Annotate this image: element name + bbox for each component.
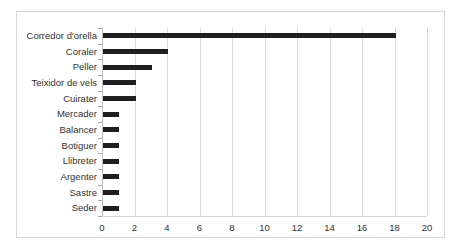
category-label: Botiguer: [17, 140, 97, 152]
bar: [103, 96, 136, 101]
bar: [103, 127, 119, 132]
x-tick-label: 2: [122, 222, 148, 234]
category-tick-mark: [98, 216, 102, 217]
x-tick-label: 18: [382, 222, 408, 234]
x-tick-label: 14: [317, 222, 343, 234]
bar: [103, 206, 119, 211]
category-tick-mark: [98, 91, 102, 92]
category-tick-mark: [98, 59, 102, 60]
y-axis-line: [102, 28, 103, 216]
x-tick-label: 0: [89, 222, 115, 234]
gridline: [362, 28, 363, 216]
category-label: Cuirater: [17, 93, 97, 105]
x-tick-label: 16: [349, 222, 375, 234]
category-label: Seder: [17, 202, 97, 214]
gridline: [330, 28, 331, 216]
category-label: Balancer: [17, 124, 97, 136]
x-tick-label: 8: [219, 222, 245, 234]
bar: [103, 112, 119, 117]
category-tick-mark: [98, 200, 102, 201]
x-tick-label: 6: [187, 222, 213, 234]
bar: [103, 33, 396, 38]
gridline: [167, 28, 168, 216]
x-axis-line: [102, 216, 427, 217]
category-tick-mark: [98, 28, 102, 29]
gridline: [200, 28, 201, 216]
category-label: Corredor d'orella: [17, 30, 97, 42]
category-tick-mark: [98, 44, 102, 45]
category-tick-mark: [98, 185, 102, 186]
category-label: Sastre: [17, 187, 97, 199]
x-tick-label: 4: [154, 222, 180, 234]
bar: [103, 49, 168, 54]
category-label: Teixidor de vels: [17, 77, 97, 89]
category-label: Coraler: [17, 46, 97, 58]
category-label: Argenter: [17, 171, 97, 183]
gridline: [297, 28, 298, 216]
category-label: Mercader: [17, 108, 97, 120]
category-label: Llibreter: [17, 155, 97, 167]
bar: [103, 80, 136, 85]
gridline: [135, 28, 136, 216]
category-tick-mark: [98, 122, 102, 123]
gridline: [232, 28, 233, 216]
bar: [103, 190, 119, 195]
gridline: [265, 28, 266, 216]
bar-chart-figure: 02468101214161820Corredor d'orellaCorale…: [16, 11, 445, 238]
category-tick-mark: [98, 169, 102, 170]
x-tick-label: 12: [284, 222, 310, 234]
x-tick-label: 10: [252, 222, 278, 234]
category-tick-mark: [98, 138, 102, 139]
bar: [103, 159, 119, 164]
category-tick-mark: [98, 75, 102, 76]
category-tick-mark: [98, 153, 102, 154]
category-label: Peller: [17, 61, 97, 73]
category-tick-mark: [98, 106, 102, 107]
gridline: [427, 28, 428, 216]
bar: [103, 143, 119, 148]
bar: [103, 65, 152, 70]
chart-page: 02468101214161820Corredor d'orellaCorale…: [0, 0, 458, 252]
bar: [103, 174, 119, 179]
gridline: [395, 28, 396, 216]
x-tick-label: 20: [414, 222, 440, 234]
